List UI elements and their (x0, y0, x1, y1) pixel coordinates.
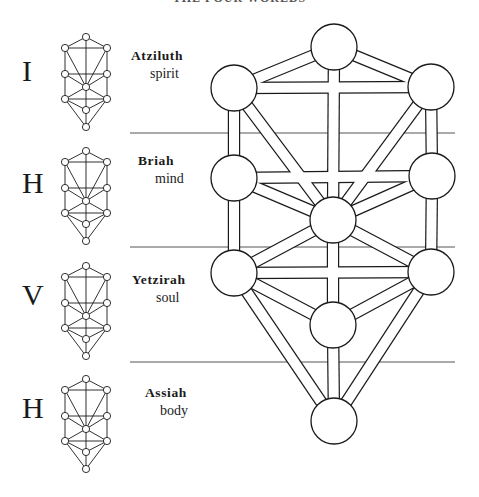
sephirah-kether (311, 24, 357, 70)
world-meaning-soul: soul (156, 290, 179, 306)
mini-path (86, 328, 107, 356)
mini-path (86, 390, 107, 429)
mini-node-tiphareth (82, 425, 89, 432)
mini-node-kether (82, 375, 89, 382)
mini-node-chokmah (103, 158, 110, 165)
mini-node-yesod (82, 335, 89, 342)
mini-node-chesed (103, 70, 110, 77)
world-meaning-mind: mind (155, 171, 184, 187)
letter-yod: I (22, 56, 32, 86)
mini-node-chokmah (103, 273, 110, 280)
world-name-atziluth: Atziluth (131, 48, 183, 64)
mini-tree-3 (61, 262, 110, 359)
mini-node-geburah (61, 184, 68, 191)
mini-node-netzach (103, 437, 110, 444)
mini-node-hod (61, 324, 68, 331)
mini-node-hod (61, 209, 68, 216)
mini-path (65, 99, 86, 127)
mini-node-chokmah (103, 44, 110, 51)
world-name-yetzirah: Yetzirah (132, 272, 186, 288)
mini-node-hod (61, 437, 68, 444)
mini-node-geburah (61, 299, 68, 306)
mini-path (65, 277, 86, 316)
mini-node-kether (82, 33, 89, 40)
letter-he-1: H (22, 168, 44, 198)
mini-path (86, 48, 107, 87)
mini-node-kether (82, 147, 89, 154)
mini-node-binah (61, 273, 68, 280)
path-binah-chokmah (234, 87, 431, 88)
sephirah-chokmah (408, 64, 454, 110)
mini-path (86, 99, 107, 127)
mini-node-yesod (82, 220, 89, 227)
path-kether-tiphareth (333, 47, 334, 220)
mini-node-tiphareth (82, 197, 89, 204)
mini-node-binah (61, 44, 68, 51)
mini-node-yesod (82, 106, 89, 113)
mini-path (86, 441, 107, 469)
letter-vav: V (22, 280, 44, 310)
mini-node-malkuth (82, 123, 89, 130)
letter-he-2: H (22, 393, 44, 423)
mini-node-yesod (82, 448, 89, 455)
path-geburah-chesed (234, 176, 432, 178)
mini-node-geburah (61, 70, 68, 77)
sephirah-tiphareth (310, 197, 356, 243)
tree-of-life-diagram (0, 0, 479, 497)
mini-path (65, 48, 86, 87)
sephirah-malkuth (311, 398, 357, 444)
mini-node-chokmah (103, 386, 110, 393)
world-meaning-body: body (160, 403, 188, 419)
mini-path (65, 213, 86, 241)
sephirah-geburah (211, 155, 257, 201)
sephirah-binah (211, 65, 257, 111)
mini-node-binah (61, 386, 68, 393)
path-hod-netzach (234, 272, 431, 273)
sephirah-yesod (310, 302, 356, 348)
mini-path (65, 390, 86, 429)
sephirah-chesed (409, 153, 455, 199)
mini-tree-1 (61, 33, 110, 130)
mini-path (65, 328, 86, 356)
mini-path (86, 213, 107, 241)
mini-node-malkuth (82, 237, 89, 244)
mini-node-malkuth (82, 352, 89, 359)
mini-node-binah (61, 158, 68, 165)
world-name-briah: Briah (138, 153, 174, 169)
mini-trees (61, 33, 110, 472)
mini-node-netzach (103, 95, 110, 102)
world-name-assiah: Assiah (145, 385, 187, 401)
mini-node-tiphareth (82, 83, 89, 90)
mini-node-hod (61, 95, 68, 102)
mini-path (86, 162, 107, 201)
mini-node-kether (82, 262, 89, 269)
mini-node-netzach (103, 324, 110, 331)
mini-path (65, 441, 86, 469)
mini-node-geburah (61, 412, 68, 419)
mini-node-chesed (103, 184, 110, 191)
mini-node-malkuth (82, 465, 89, 472)
mini-tree-4 (61, 375, 110, 472)
sephirah-hod (211, 250, 257, 296)
mini-node-chesed (103, 299, 110, 306)
mini-tree-2 (61, 147, 110, 244)
mini-node-tiphareth (82, 312, 89, 319)
sephirah-netzach (408, 249, 454, 295)
mini-node-chesed (103, 412, 110, 419)
world-meaning-spirit: spirit (150, 66, 179, 82)
mini-node-netzach (103, 209, 110, 216)
mini-path (86, 277, 107, 316)
mini-path (65, 162, 86, 201)
